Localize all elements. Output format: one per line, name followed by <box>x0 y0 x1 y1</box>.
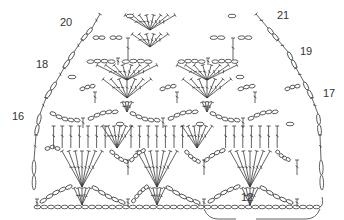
crochet-chart <box>0 0 344 220</box>
chain-stitch <box>260 110 267 115</box>
chain-stitch <box>238 86 245 91</box>
chain-stitch <box>165 185 173 192</box>
chain-stitch <box>170 205 177 209</box>
dc-stitch <box>69 151 82 187</box>
chain-stitch <box>39 197 47 204</box>
chain-stitch <box>137 59 145 63</box>
chain-stitch <box>313 205 320 209</box>
dc-stitch <box>256 14 268 28</box>
chain-stitch <box>65 184 73 190</box>
chain-stitch <box>228 118 235 123</box>
dc-stitch <box>74 40 82 52</box>
chain-stitch <box>167 116 174 121</box>
chain-stitch <box>231 60 238 64</box>
dc-stitch <box>150 15 175 30</box>
chain-stitch <box>85 85 91 90</box>
dc-stitch <box>149 188 157 205</box>
chain-stitch <box>207 197 215 204</box>
dc-stitch <box>40 98 46 114</box>
dc-stitch <box>320 135 321 160</box>
chain-stitch <box>122 60 130 64</box>
chain-stitch <box>316 114 321 125</box>
chain-stitch <box>186 196 194 203</box>
chain-stitch <box>99 36 105 40</box>
chain-stitch <box>320 175 324 190</box>
chain-stitch <box>252 205 259 209</box>
chain-stitch <box>50 145 55 149</box>
dc-stitch <box>191 79 207 98</box>
dc-stitch <box>250 151 263 187</box>
chain-stitch <box>272 205 279 209</box>
chain-stitch <box>116 36 122 40</box>
chain-stitch <box>266 205 273 209</box>
dc-stitch <box>56 68 64 82</box>
dc-stitch <box>296 68 304 82</box>
chain-stitch <box>210 36 218 40</box>
chain-stitch <box>192 109 199 114</box>
chain-stitch <box>34 124 40 135</box>
chain-stitch <box>116 205 123 209</box>
chain-stitch <box>233 184 241 190</box>
chain-stitch <box>249 84 255 89</box>
dc-stitch <box>111 79 127 98</box>
chain-stitch <box>87 116 94 121</box>
chain-stitch <box>180 110 187 115</box>
chain-stitch <box>144 60 152 64</box>
chain-stitch <box>94 59 101 63</box>
chain-stitch <box>91 185 99 192</box>
chain-stitch <box>218 205 225 209</box>
chain-stitch <box>148 118 155 123</box>
chain-stitch <box>87 60 94 64</box>
chain-stitch <box>186 110 193 115</box>
chain-stitch <box>94 113 101 118</box>
dc-stitch <box>153 188 157 205</box>
chain-stitch <box>68 118 75 123</box>
chain-stitch <box>217 36 225 40</box>
chain-stitch <box>192 199 200 205</box>
chain-stitch <box>219 148 226 154</box>
chain-stitch <box>279 205 286 209</box>
chain-stitch <box>75 205 82 209</box>
dc-stitch <box>278 40 288 52</box>
chain-stitch <box>93 36 99 40</box>
chain-stitch <box>245 205 252 209</box>
chain-stitch <box>238 205 245 209</box>
dc-stitch <box>242 188 250 205</box>
chain-stitch <box>32 175 36 190</box>
chain-stitch <box>118 199 126 205</box>
chain-stitch <box>129 59 137 63</box>
chain-stitch <box>165 85 171 90</box>
chain-stitch <box>163 205 170 209</box>
chain-stitch <box>279 196 287 203</box>
chain-stitch <box>45 146 51 150</box>
chain-stitch <box>49 111 56 116</box>
dc-stitch <box>144 151 157 187</box>
chain-stitch <box>300 205 307 209</box>
chain-stitch <box>143 205 150 209</box>
chain-stitch <box>109 205 116 209</box>
chain-stitch <box>290 85 296 90</box>
chain-stitch <box>225 205 232 209</box>
dc-stitch <box>312 98 318 114</box>
chain-stitch <box>204 205 211 209</box>
chain-stitch <box>142 116 149 121</box>
chain-stitch <box>82 205 89 209</box>
chain-stitch <box>293 205 300 209</box>
chain-stitch <box>243 85 249 90</box>
chain-stitch <box>211 205 218 209</box>
chain-stitch <box>212 60 219 64</box>
chain-stitch <box>178 60 185 64</box>
repeat-bracket <box>204 209 320 219</box>
chain-stitch <box>100 110 107 115</box>
chain-stitch <box>191 59 198 63</box>
chain-stitch <box>272 109 279 114</box>
chain-stitch <box>286 51 293 61</box>
chain-stitch <box>306 89 313 99</box>
chain-stitch <box>68 205 75 209</box>
chain-stitch <box>302 81 309 91</box>
chain-stitch <box>129 205 136 209</box>
chain-stitch <box>111 196 119 203</box>
chain-stitch <box>198 60 205 64</box>
chain-stitch <box>136 114 143 119</box>
edge-stitches <box>32 13 324 190</box>
